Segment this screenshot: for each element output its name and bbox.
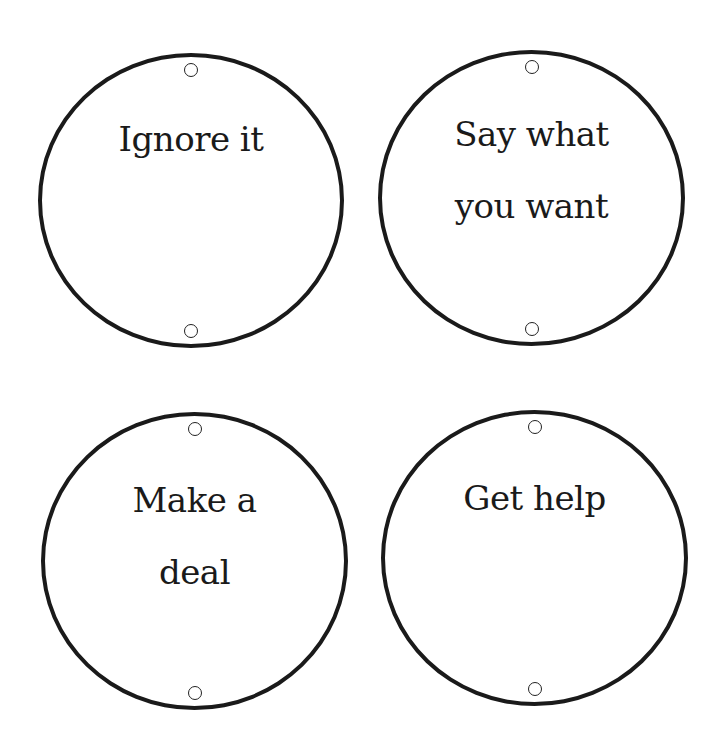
card-label-line-2: deal: [45, 554, 344, 590]
card-label-line-1: Get help: [463, 478, 605, 518]
card-label-line-2: you want: [382, 188, 681, 224]
card-make-a-deal: Make a deal: [41, 412, 348, 710]
card-ignore-it: Ignore it: [38, 53, 344, 348]
punch-hole-top-icon: [184, 63, 198, 77]
card-label: Make a deal: [45, 446, 344, 626]
punch-hole-bottom-icon: [188, 686, 202, 700]
card-label: Ignore it: [42, 85, 340, 157]
punch-hole-top-icon: [525, 60, 539, 74]
punch-hole-bottom-icon: [528, 682, 542, 696]
card-label-line-1: Say what: [382, 116, 681, 152]
punch-hole-top-icon: [188, 422, 202, 436]
punch-hole-bottom-icon: [184, 324, 198, 338]
card-label: Say what you want: [382, 80, 681, 260]
card-label-line-1: Ignore it: [119, 119, 264, 159]
punch-hole-bottom-icon: [525, 322, 539, 336]
card-label: Get help: [385, 444, 684, 516]
card-say-what-you-want: Say what you want: [378, 50, 685, 346]
card-label-line-1: Make a: [45, 482, 344, 518]
punch-hole-top-icon: [528, 420, 542, 434]
card-get-help: Get help: [381, 410, 688, 706]
